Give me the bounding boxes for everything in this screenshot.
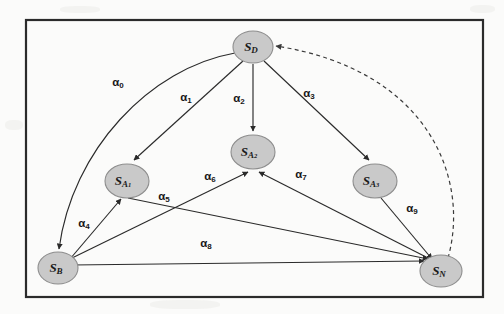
node-SA3[interactable]: SA3 <box>353 164 397 198</box>
edge-a5 <box>128 198 428 259</box>
edge-label-a7: α7 <box>295 168 307 182</box>
edge-label-a6: α6 <box>204 170 216 184</box>
node-SA1[interactable]: SA1 <box>105 164 149 198</box>
edge-label-a4: α4 <box>78 217 90 231</box>
edge-label-a5: α5 <box>158 190 170 204</box>
edge-a3 <box>264 61 369 160</box>
state-transition-diagram: SD SA1 SA2 SA3 SB SN α0 α1 α2 α3 α4 α5 α <box>0 0 504 314</box>
edge-a8 <box>72 261 424 265</box>
edge-a1 <box>134 61 243 160</box>
edge-label-a9: α9 <box>406 202 418 216</box>
edge-label-a1: α1 <box>180 91 192 105</box>
edge-label-a8: α8 <box>200 237 212 251</box>
edge-a6 <box>70 172 248 259</box>
node-SA2[interactable]: SA2 <box>231 135 275 169</box>
edge-label-a3: α3 <box>303 87 315 101</box>
node-SD[interactable]: SD <box>233 31 273 63</box>
node-SB[interactable]: SB <box>38 252 78 284</box>
edge-label-a2: α2 <box>233 92 245 106</box>
edge-a4 <box>70 199 121 259</box>
edge-a0 <box>59 53 235 249</box>
figure-canvas: SD SA1 SA2 SA3 SB SN α0 α1 α2 α3 α4 α5 α <box>0 0 504 314</box>
edge-label-a0: α0 <box>112 76 124 90</box>
edge-a7 <box>259 172 430 259</box>
node-SN[interactable]: SN <box>420 255 462 287</box>
